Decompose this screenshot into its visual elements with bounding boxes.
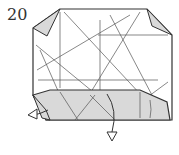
origami-diagram — [0, 0, 179, 155]
bottom-shaded-band — [33, 90, 170, 120]
